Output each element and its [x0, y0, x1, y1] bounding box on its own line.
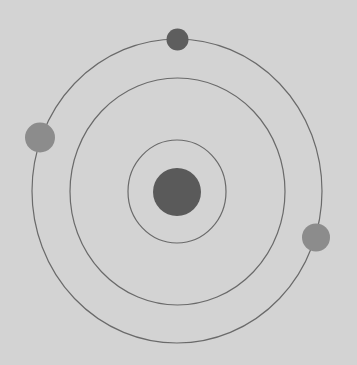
atom-diagram [0, 0, 357, 365]
nucleus [153, 168, 201, 216]
nucleus-group [153, 168, 201, 216]
atom-diagram-svg [0, 0, 357, 365]
electron-left [25, 123, 55, 153]
electron-right [302, 224, 330, 252]
electron-top [167, 29, 189, 51]
